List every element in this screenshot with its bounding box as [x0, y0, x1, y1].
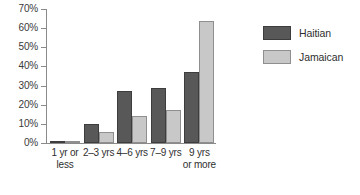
bar-group	[184, 9, 214, 143]
bar-haitian[interactable]	[50, 141, 65, 143]
y-axis-tick-label: 50%	[0, 42, 38, 52]
y-axis-tick	[41, 47, 46, 48]
y-axis-tick-label: 10%	[0, 119, 38, 129]
bar-haitian[interactable]	[117, 91, 132, 143]
legend-item[interactable]: Jamaican	[263, 50, 343, 64]
y-axis-tick-label: 60%	[0, 23, 38, 33]
y-axis-tick	[41, 9, 46, 10]
bar-chart: 0%10%20%30%40%50%60%70% 1 yr orless2–3 y…	[0, 0, 360, 195]
x-axis-line	[46, 143, 216, 144]
bar-haitian[interactable]	[151, 88, 166, 144]
bar-jamaican[interactable]	[199, 21, 214, 144]
legend-swatch-jamaican	[263, 50, 291, 64]
bar-jamaican[interactable]	[65, 141, 80, 143]
y-axis-tick-label: 0%	[0, 138, 38, 148]
x-axis-tick-label-line: less	[37, 159, 93, 171]
y-axis-tick-label: 70%	[0, 4, 38, 14]
y-axis-tick	[41, 86, 46, 87]
legend-label: Jamaican	[299, 51, 343, 63]
bar-jamaican[interactable]	[166, 110, 181, 143]
bar-group	[50, 9, 80, 143]
legend-swatch-haitian	[263, 26, 291, 40]
y-axis-tick	[41, 28, 46, 29]
bar-haitian[interactable]	[84, 124, 99, 143]
chart-legend: HaitianJamaican	[263, 26, 343, 74]
x-axis-tick-label-line: 9 yrs	[171, 147, 227, 159]
x-axis-tick-label: 9 yrsor more	[171, 147, 227, 170]
y-axis-tick	[41, 124, 46, 125]
plot-area	[47, 9, 215, 143]
y-axis-tick-label: 20%	[0, 100, 38, 110]
x-axis-tick-label-line: or more	[171, 159, 227, 171]
y-axis-tick	[41, 66, 46, 67]
bar-jamaican[interactable]	[132, 116, 147, 143]
y-axis-tick-label: 30%	[0, 81, 38, 91]
legend-item[interactable]: Haitian	[263, 26, 343, 40]
bar-group	[84, 9, 114, 143]
bar-haitian[interactable]	[184, 72, 199, 143]
bar-group	[151, 9, 181, 143]
bar-jamaican[interactable]	[99, 132, 114, 143]
y-axis-tick	[41, 143, 46, 144]
bar-group	[117, 9, 147, 143]
legend-label: Haitian	[299, 27, 331, 39]
y-axis-tick	[41, 105, 46, 106]
y-axis-tick-label: 40%	[0, 61, 38, 71]
